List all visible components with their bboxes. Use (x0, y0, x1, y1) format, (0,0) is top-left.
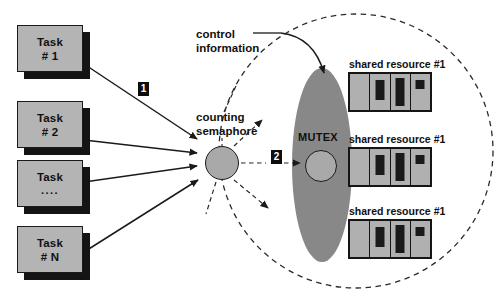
shared-resource-box-top[interactable] (348, 72, 432, 112)
task-label-line1: Task (37, 35, 63, 49)
resource-cell-empty (350, 74, 370, 110)
shared-resource-label-bottom: shared resource #1 (349, 205, 445, 217)
resource-cell-medium (370, 74, 390, 110)
shared-resource-box-middle[interactable] (348, 147, 432, 187)
control-information-label: control information (196, 27, 259, 55)
dashed-ray-down (234, 180, 268, 208)
arrow-task2-to-semaphore (84, 140, 197, 153)
shared-resource-label-top: shared resource #1 (349, 58, 445, 70)
resource-cell-small (411, 149, 430, 185)
resource-cell-tall (391, 221, 411, 257)
task-label-line2: # N (41, 250, 60, 264)
resource-cell-tall (391, 74, 411, 110)
task-label-line1: Task (37, 170, 63, 184)
task-box-body: Task # N (17, 226, 83, 273)
dashed-ray-up-left (224, 86, 236, 112)
task-label-line2: # 2 (42, 125, 59, 139)
counting-semaphore-line1: counting (196, 111, 257, 125)
resource-cell-medium (370, 221, 390, 257)
task-box-2[interactable]: Task # 2 (17, 101, 83, 148)
resource-cell-small (411, 221, 430, 257)
task-box-1[interactable]: Task # 1 (17, 25, 83, 72)
resource-cell-empty (350, 149, 370, 185)
shared-resource-box-bottom[interactable] (348, 219, 432, 259)
task-box-n[interactable]: Task # N (17, 226, 83, 273)
step-badge-1: 1 (138, 82, 149, 96)
shared-resource-label-middle: shared resource #1 (349, 133, 445, 145)
resource-cell-empty (350, 221, 370, 257)
task-label-line2: .... (41, 184, 59, 197)
task-label-line1: Task (37, 111, 63, 125)
task-label-line2: # 1 (42, 49, 59, 63)
control-information-line1: control (196, 27, 259, 41)
task-box-body: Task .... (17, 160, 83, 207)
task-label-line1: Task (37, 236, 63, 250)
arrow-task3-to-semaphore (84, 166, 197, 182)
counting-semaphore-label: counting semaphore (196, 111, 257, 138)
task-box-body: Task # 2 (17, 101, 83, 148)
task-box-body: Task # 1 (17, 25, 83, 72)
control-information-line2: information (196, 41, 259, 55)
curved-arrow-control-information (281, 33, 324, 73)
mutex-disc[interactable] (305, 150, 337, 182)
arrow-taskn-to-semaphore (84, 180, 198, 252)
counting-semaphore-line2: semaphore (196, 125, 257, 139)
mutex-label: MUTEX (298, 131, 338, 143)
task-box-ellipsis[interactable]: Task .... (17, 160, 83, 207)
dashed-ray-down-left (206, 182, 216, 214)
step-badge-2: 2 (271, 150, 282, 164)
resource-cell-tall (391, 149, 411, 185)
counting-semaphore-disc[interactable] (205, 146, 239, 180)
resource-cell-medium (370, 149, 390, 185)
resource-cell-small (411, 74, 430, 110)
arrow-task1-to-semaphore (84, 64, 197, 139)
diagram-canvas: Task # 1 Task # 2 Task .... Task # N con… (0, 0, 501, 306)
